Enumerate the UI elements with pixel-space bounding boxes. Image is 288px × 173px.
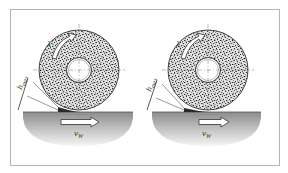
- grinding-diagram: λ hmax vW λ hmax vW: [0, 0, 288, 173]
- rotation-label: λ: [175, 39, 180, 49]
- workpiece: [23, 112, 133, 146]
- panel-right: λ hmax vW: [143, 24, 261, 146]
- grinding-wheel: [33, 24, 125, 116]
- rotation-label: λ: [46, 39, 51, 49]
- workpiece: [152, 112, 261, 146]
- hmax-label: hmax: [14, 74, 29, 91]
- hmax-label: hmax: [143, 76, 158, 93]
- panel-left: λ hmax vW: [14, 24, 133, 146]
- grinding-wheel: [162, 24, 254, 116]
